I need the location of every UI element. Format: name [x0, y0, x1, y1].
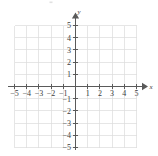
y-tick-label-4: 4 — [67, 34, 71, 43]
y-axis-label: y — [76, 8, 81, 16]
y-tick-label--2: −2 — [62, 107, 71, 116]
y-tick-label--5: −5 — [62, 143, 71, 152]
x-axis-tick-labels: −5 −4 −3 −2 −1 1 2 3 4 5 — [10, 89, 138, 98]
y-tick-label-3: 3 — [67, 46, 71, 55]
y-tick-label-5: 5 — [67, 21, 71, 30]
x-tick-label--3: −3 — [35, 89, 44, 98]
coordinate-grid-svg: −5 −4 −3 −2 −1 1 2 3 4 5 5 4 3 2 1 −1 −2… — [0, 0, 158, 156]
y-tick-label-1: 1 — [67, 70, 71, 79]
x-tick-label-5: 5 — [135, 89, 139, 98]
x-tick-label-2: 2 — [98, 89, 102, 98]
x-tick-label--2: −2 — [47, 89, 56, 98]
x-tick-label-3: 3 — [110, 89, 114, 98]
coordinate-plane-figure: −5 −4 −3 −2 −1 1 2 3 4 5 5 4 3 2 1 −1 −2… — [0, 0, 158, 156]
x-tick-label--4: −4 — [22, 89, 31, 98]
x-axis-arrow-icon — [142, 83, 148, 90]
x-tick-label-1: 1 — [86, 89, 90, 98]
artifact-mark — [50, 2, 53, 4]
x-tick-label-4: 4 — [122, 89, 126, 98]
y-tick-label--3: −3 — [62, 119, 71, 128]
y-tick-label--1: −1 — [62, 95, 71, 104]
y-tick-label-2: 2 — [67, 58, 71, 67]
y-tick-label--4: −4 — [62, 131, 71, 140]
x-tick-label--5: −5 — [10, 89, 19, 98]
x-axis-label: x — [148, 83, 153, 91]
